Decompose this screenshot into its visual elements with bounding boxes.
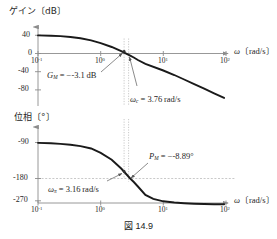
gain-x-axis-label: ω〔rad/s〕 <box>234 47 275 56</box>
phase-crossover-annotation: ωπ = 3.16 rad/s <box>48 185 99 194</box>
phase-xtick-1: 100 <box>95 206 105 214</box>
gain-xtick-2: 101 <box>158 57 168 65</box>
phase-ytick-neg90: -90 <box>18 138 29 146</box>
phase-xtick-3: 102 <box>220 206 230 214</box>
phase-axis-title: 位相〔°〕 <box>14 113 55 122</box>
bode-diagram-figure: ゲイン〔dB〕 40 0 -40 -80 10-1 100 101 102 ω〔… <box>0 0 277 239</box>
gain-xtick-3: 102 <box>220 57 230 65</box>
figure-caption: 図 14.9 <box>0 222 277 231</box>
gain-crossover-annotation: ωc = 3.76 rad/s <box>130 95 181 104</box>
gain-curve <box>38 35 224 98</box>
gain-ytick-40: 40 <box>22 31 30 39</box>
phase-ytick-neg270: -270 <box>13 196 28 204</box>
gain-margin-annotation: GM = −-3.1 dB <box>47 71 96 80</box>
phase-xtick-0: 10-1 <box>31 206 42 214</box>
phase-annotation-leaders <box>107 163 148 181</box>
gain-ytick-neg80: -80 <box>18 85 29 93</box>
phase-margin-annotation: PM = −-8.89° <box>149 152 194 161</box>
gain-ytick-neg40: -40 <box>18 67 29 75</box>
gain-axis-title: ゲイン〔dB〕 <box>9 7 66 16</box>
phase-xtick-2: 101 <box>158 206 168 214</box>
phase-curve <box>38 143 224 204</box>
phase-ytick-neg180: -180 <box>13 174 28 182</box>
phase-crossover-marker <box>123 170 126 173</box>
gain-xtick-0: 10-1 <box>31 57 42 65</box>
phase-x-axis-label: ω〔rad/s〕 <box>234 196 275 205</box>
gain-guide-lines <box>124 39 129 107</box>
gain-annotation-leaders <box>101 54 137 87</box>
gain-xtick-1: 100 <box>95 57 105 65</box>
gain-margin-marker <box>123 50 126 53</box>
